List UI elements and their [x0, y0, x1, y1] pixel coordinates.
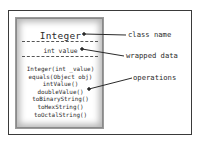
label-operations: operations — [133, 73, 176, 82]
arrow-dot-icon — [83, 33, 86, 36]
label-class-name: class name — [128, 30, 171, 39]
arrow-wrapped-data — [82, 49, 124, 56]
arrow-class-name — [84, 34, 126, 35]
arrow-operations — [89, 78, 132, 89]
arrow-dot-icon — [88, 88, 91, 91]
arrow-dot-icon — [81, 48, 84, 51]
label-wrapped-data: wrapped data — [126, 51, 178, 60]
